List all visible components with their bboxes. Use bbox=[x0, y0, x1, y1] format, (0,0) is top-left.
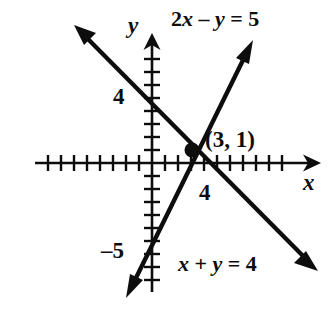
y-axis-tick-label-minus-5: –5 bbox=[101, 239, 124, 262]
line1-arrowhead-lower-right-icon bbox=[294, 251, 318, 271]
line2-arrowhead-upper-right-icon bbox=[236, 40, 253, 64]
x-axis-label: x bbox=[303, 171, 315, 194]
graph-figure: y x 2x – y = 5 x + y = 4 (3, 1) 4 –5 4 bbox=[0, 0, 335, 320]
intersection-point-label: (3, 1) bbox=[205, 128, 255, 151]
line2-arrowhead-lower-left-icon bbox=[126, 274, 143, 298]
equation-label-2x-minus-y-5: 2x – y = 5 bbox=[171, 8, 259, 30]
equation-label-x-plus-y-4: x + y = 4 bbox=[178, 253, 257, 275]
y-axis-label: y bbox=[128, 14, 138, 37]
intersection-dot bbox=[185, 143, 200, 158]
x-axis-tick-label-4: 4 bbox=[199, 181, 211, 204]
coordinate-plane-svg bbox=[0, 0, 335, 320]
y-axis-tick-label-4: 4 bbox=[113, 85, 125, 108]
